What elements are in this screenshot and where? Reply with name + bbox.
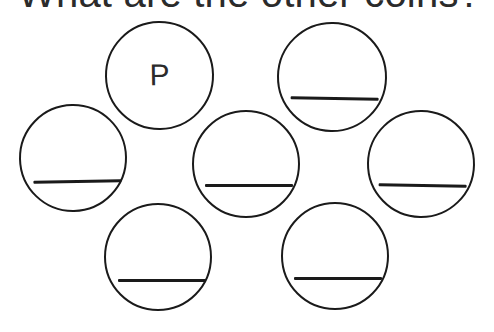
coin-bottom-right-answer-line <box>294 277 382 280</box>
page-title: What are the other coins? <box>18 0 481 13</box>
coin-bottom-right[interactable] <box>281 202 389 310</box>
coin-middle-left[interactable] <box>18 103 128 213</box>
coin-middle-center[interactable] <box>192 110 300 218</box>
coin-top-right[interactable] <box>276 21 388 133</box>
coin-middle-right[interactable] <box>366 109 476 219</box>
coin-top-left-label: P <box>107 59 213 91</box>
worksheet-page: What are the other coins? P <box>0 0 494 332</box>
coin-top-right-answer-line <box>291 96 379 101</box>
coin-bottom-left[interactable] <box>104 203 212 311</box>
coin-middle-right-answer-line <box>379 183 467 188</box>
coin-middle-left-answer-line <box>33 179 121 184</box>
coin-top-left[interactable]: P <box>104 20 215 131</box>
coin-bottom-left-answer-line <box>118 279 206 282</box>
page-title-clip: What are the other coins? <box>0 0 494 13</box>
coin-middle-center-answer-line <box>205 184 293 187</box>
